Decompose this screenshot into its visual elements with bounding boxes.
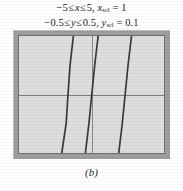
y-scale-equals: = — [116, 17, 122, 28]
x-min-value: −5 — [56, 2, 67, 13]
y-scale-value: 0.1 — [125, 17, 138, 28]
x-lower-relation: ≤ — [68, 2, 75, 13]
x-variable: x — [75, 2, 80, 13]
y-scale-subscript: scl — [106, 22, 113, 29]
y-variable: y — [71, 17, 76, 28]
x-window-setting: −5≤x≤5, xscl = 1 — [0, 1, 183, 16]
x-scale-value: 1 — [121, 2, 126, 13]
x-comma: , — [92, 2, 95, 13]
figure-container: −5≤x≤5, xscl = 1 −0.5≤y≤0.5, yscl = 0.1 … — [0, 0, 183, 191]
y-comma: , — [96, 17, 99, 28]
calculator-screen — [13, 30, 170, 159]
y-min-value: −0.5 — [44, 17, 63, 28]
x-upper-relation: ≤ — [80, 2, 87, 13]
x-scale-equals: = — [112, 2, 118, 13]
y-max-value: 0.5 — [83, 17, 96, 28]
y-lower-relation: ≤ — [64, 17, 71, 28]
x-scale-subscript: scl — [102, 6, 109, 13]
y-upper-relation: ≤ — [76, 17, 83, 28]
plot-area — [18, 35, 165, 154]
figure-part-label: (b) — [0, 166, 183, 178]
window-settings: −5≤x≤5, xscl = 1 −0.5≤y≤0.5, yscl = 0.1 — [0, 1, 183, 32]
plot-canvas — [19, 36, 164, 153]
